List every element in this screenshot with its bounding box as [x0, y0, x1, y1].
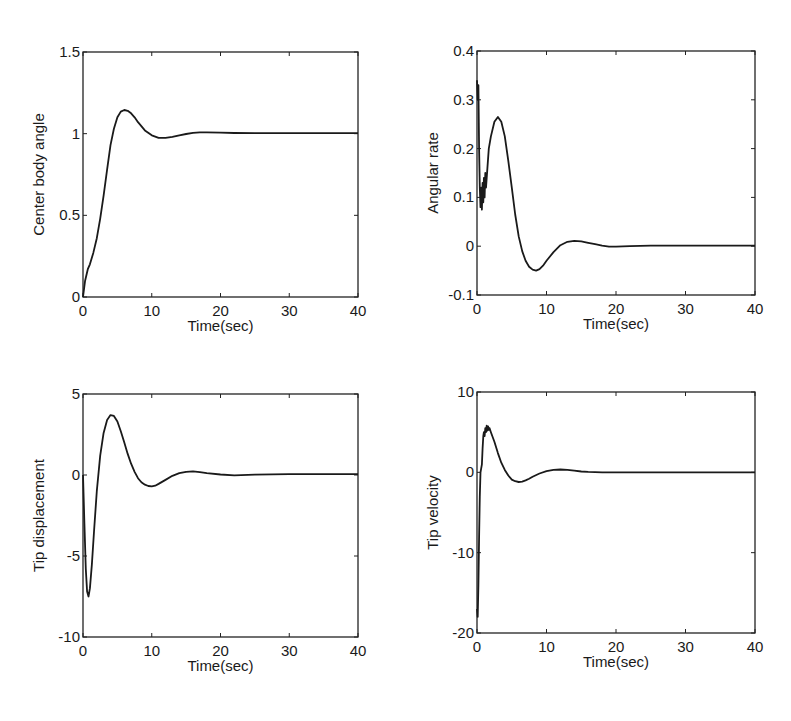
series-line-tip-velocity: [477, 426, 755, 617]
y-axis-label: Angular rate: [424, 132, 441, 214]
x-tick-label: 10: [143, 302, 160, 319]
y-axis-label: Center body angle: [30, 113, 47, 236]
x-tick-label: 10: [538, 300, 555, 317]
subplot-center-body-angle: 01020304000.511.5Time(sec)Center body an…: [30, 43, 366, 334]
y-tick-label: 10: [457, 383, 474, 400]
y-tick-label: 0: [72, 288, 80, 305]
y-axis-label: Tip displacement: [30, 458, 47, 572]
y-tick-label: 0.3: [453, 91, 474, 108]
x-tick-label: 0: [473, 300, 481, 317]
axes-frame: [83, 394, 358, 637]
y-tick-label: -0.1: [448, 286, 474, 303]
x-tick-label: 10: [143, 642, 160, 659]
axes-frame: [477, 392, 755, 633]
axes-frame: [477, 51, 755, 295]
y-tick-label: -5: [67, 547, 80, 564]
figure-canvas: 01020304000.511.5Time(sec)Center body an…: [0, 0, 791, 721]
y-tick-label: 0: [466, 463, 474, 480]
x-tick-label: 40: [747, 300, 764, 317]
y-tick-label: 1: [72, 125, 80, 142]
figure: 01020304000.511.5Time(sec)Center body an…: [0, 0, 791, 721]
x-tick-label: 40: [350, 302, 367, 319]
x-tick-label: 30: [281, 642, 298, 659]
x-tick-label: 30: [677, 638, 694, 655]
axes-frame: [83, 52, 358, 297]
y-tick-label: -10: [58, 628, 80, 645]
y-tick-label: 5: [72, 385, 80, 402]
x-tick-label: 0: [473, 638, 481, 655]
x-axis-label: Time(sec): [583, 653, 649, 670]
y-axis-label: Tip velocity: [424, 475, 441, 550]
y-tick-label: 0: [466, 237, 474, 254]
x-tick-label: 0: [79, 302, 87, 319]
x-tick-label: 40: [747, 638, 764, 655]
x-axis-label: Time(sec): [187, 317, 253, 334]
y-tick-label: 0.1: [453, 188, 474, 205]
series-line-center-body-angle: [83, 110, 358, 297]
x-tick-label: 40: [350, 642, 367, 659]
y-tick-label: -20: [452, 624, 474, 641]
x-tick-label: 30: [281, 302, 298, 319]
y-tick-label: 0.5: [59, 206, 80, 223]
x-axis-label: Time(sec): [187, 657, 253, 674]
series-line-tip-displacement: [83, 415, 358, 596]
x-tick-label: 0: [79, 642, 87, 659]
x-axis-label: Time(sec): [583, 315, 649, 332]
subplot-tip-displacement: 010203040-10-505Time(sec)Tip displacemen…: [30, 385, 366, 674]
y-tick-label: -10: [452, 544, 474, 561]
y-tick-label: 0.2: [453, 140, 474, 157]
x-tick-label: 30: [677, 300, 694, 317]
subplot-angular-rate: 010203040-0.100.10.20.30.4Time(sec)Angul…: [424, 42, 763, 332]
x-tick-label: 10: [538, 638, 555, 655]
y-tick-label: 0: [72, 466, 80, 483]
y-tick-label: 1.5: [59, 43, 80, 60]
y-tick-label: 0.4: [453, 42, 474, 59]
subplot-tip-velocity: 010203040-20-10010Time(sec)Tip velocity: [424, 383, 763, 670]
series-line-angular-rate: [477, 80, 755, 270]
